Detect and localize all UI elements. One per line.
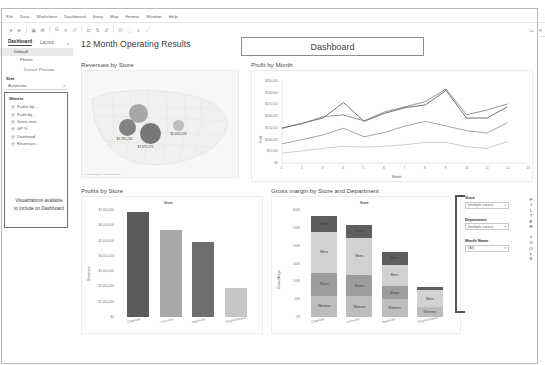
viz-profits-by-store[interactable]: Profits by Store Store Revenues $7,000,0… <box>81 187 263 335</box>
bar-chart-body[interactable]: Store Revenues $7,000,000$6,000,000$5,00… <box>81 196 263 334</box>
line-chart-plot <box>252 71 534 183</box>
bar[interactable] <box>192 242 214 317</box>
x-tick: 12 <box>506 166 509 170</box>
chevron-down-icon: ▾ <box>504 225 506 229</box>
map-body[interactable]: $4,765,240$7,475,571$2,094,018 © 2021 Ma… <box>81 70 239 178</box>
stack-segment[interactable]: Shoes <box>382 286 408 299</box>
line-series <box>282 121 508 143</box>
stack-segment[interactable]: Home <box>382 252 408 264</box>
x-tick: 13 <box>527 166 530 170</box>
stack-segment[interactable]: Mens <box>311 232 337 273</box>
category-label: Louisville <box>346 317 360 324</box>
sheet-item[interactable]: ▤Profit by ... <box>5 110 67 117</box>
menu-item-format[interactable]: Format <box>125 14 139 19</box>
bar-chart-icon: ▤ <box>11 119 15 124</box>
viz-revenues-by-store[interactable]: Revenues by Store <box>81 61 239 179</box>
x-tick: 6 <box>383 166 385 170</box>
x-tick: 3 <box>322 166 324 170</box>
page-title: 12 Month Operating Results <box>81 39 191 49</box>
filter-label: Department <box>465 217 533 222</box>
menu-item-help[interactable]: Help <box>169 14 178 19</box>
map-bubble[interactable] <box>173 120 184 131</box>
stack-segment[interactable]: Home <box>311 216 337 232</box>
us-map-shape <box>82 71 239 178</box>
bar[interactable] <box>225 288 247 317</box>
sidebar-item-device-preview[interactable]: Device Preview <box>0 66 73 74</box>
bar-chart-icon: ▤ <box>11 104 15 109</box>
y-tick: $50,000 <box>267 149 278 153</box>
sidebar-collapse-icon[interactable]: ▴ <box>67 41 69 46</box>
stack-segment[interactable]: Mens <box>346 238 372 275</box>
viz-gross-margin[interactable]: Gross margin by Store and Department Sto… <box>271 187 461 335</box>
chevron-down-icon: ▾ <box>61 84 67 88</box>
menu-item-map[interactable]: Map <box>110 14 118 19</box>
bar-chart-icon: ▤ <box>11 134 15 139</box>
filter-value: (All) <box>468 246 474 250</box>
stack-segment[interactable]: Womens <box>311 296 337 317</box>
tab-dashboard[interactable]: Dashboard <box>8 39 32 46</box>
sheet-item-label: Profit by ... <box>17 112 37 117</box>
filter-groups: Store(multiple values)▾Department(multip… <box>465 195 533 252</box>
y-tick: $350,000 <box>265 79 278 83</box>
category-label: Nashville <box>382 317 395 324</box>
sheets-note: Visualizations available to include on D… <box>13 197 65 212</box>
bar-chart-icon: ▤ <box>11 126 15 131</box>
menu-item-worksheet[interactable]: Worksheet <box>36 14 57 19</box>
x-tick: 9 <box>445 166 447 170</box>
sidebar-item-default[interactable]: Default <box>0 48 73 56</box>
filter-select-store[interactable]: (multiple values)▾ <box>465 202 509 209</box>
viz-title-stack: Gross margin by Store and Department <box>271 187 461 194</box>
tab-layout[interactable]: Layout <box>40 40 54 46</box>
menu-item-file[interactable]: File <box>6 14 13 19</box>
viz-profit-by-month[interactable]: Profit by Month Profit $350,000$300,000$… <box>251 61 533 183</box>
bar-y-axis-title: Revenues <box>87 267 91 281</box>
menu-item-data[interactable]: Data <box>20 14 29 19</box>
bar-x-axis-title: Store <box>164 201 173 205</box>
stack-segment[interactable] <box>417 287 443 290</box>
stack-segment[interactable]: Shoes <box>311 273 337 296</box>
category-label: Nashville <box>192 317 205 324</box>
map-bubble[interactable] <box>129 104 148 123</box>
filter-label: Month Name <box>465 238 533 243</box>
bar[interactable] <box>127 212 149 317</box>
stack-segment[interactable]: Home <box>346 225 372 238</box>
x-tick: 4 <box>342 166 344 170</box>
sheet-item[interactable]: ▤GP % <box>5 125 67 132</box>
y-tick: 250K <box>280 226 300 230</box>
line-chart-body[interactable]: Profit $350,000$300,000$250,000$200,000$… <box>251 70 533 182</box>
y-tick: $300,000 <box>265 91 278 95</box>
map-bubble[interactable] <box>140 123 161 144</box>
stack-segment-label: Shoes <box>320 282 329 286</box>
stack-segment[interactable]: Shoes <box>346 275 372 296</box>
stacked-chart-body[interactable]: Store Gross Margin 300K250K200K150K100K5… <box>271 196 461 334</box>
sheet-item[interactable]: ▤Overhead ... <box>5 133 67 140</box>
sheet-item[interactable]: ▤Gross mar... <box>5 118 67 125</box>
x-tick: 1 <box>281 166 283 170</box>
stack-x-axis-title: Store <box>360 201 369 205</box>
stack-segment[interactable]: Womens <box>346 296 372 317</box>
menu-item-dashboard[interactable]: Dashboard <box>64 14 85 19</box>
x-tick: 7 <box>404 166 406 170</box>
menu-bar: FileDataWorksheetDashboardStoryMapFormat… <box>0 11 545 22</box>
menu-item-story[interactable]: Story <box>93 14 103 19</box>
sheet-item-label: GP % <box>17 126 28 131</box>
stack-segment[interactable]: Mens <box>417 290 443 307</box>
map-bubble-label: $2,094,018 <box>171 132 187 136</box>
sheet-item[interactable]: ▤Profits by ... <box>5 103 67 110</box>
filter-select-department[interactable]: (multiple values)▾ <box>465 223 509 230</box>
size-select[interactable]: Automatic ▾ <box>6 82 67 90</box>
filter-select-month-name[interactable]: (All)▾ <box>465 245 509 252</box>
sidebar-item-phone[interactable]: Phone <box>0 56 73 64</box>
stack-segment[interactable]: Womens <box>417 307 443 317</box>
bar[interactable] <box>160 230 182 317</box>
sheet-item[interactable]: ▤Revenues ... <box>5 140 67 147</box>
stack-segment[interactable]: Womens <box>382 299 408 317</box>
stack-segment[interactable]: Mens <box>382 265 408 286</box>
y-tick: $5,000,000 <box>92 239 114 243</box>
x-tick: 2 <box>301 166 303 170</box>
y-tick: $0 <box>92 315 114 319</box>
line-x-axis-title: Month <box>392 175 401 179</box>
y-tick: $6,000,000 <box>92 223 114 227</box>
filter-label: Store <box>465 195 533 200</box>
menu-item-window[interactable]: Window <box>146 14 162 19</box>
